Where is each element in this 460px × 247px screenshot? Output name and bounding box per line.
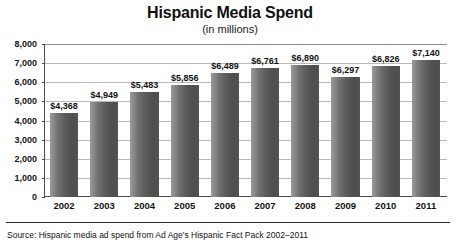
y-axis-tick-label: 5,000 — [14, 97, 37, 106]
bar-value-label: $6,890 — [292, 53, 320, 63]
bar[interactable] — [372, 66, 400, 197]
bar[interactable] — [90, 102, 118, 197]
bar-series: $4,368$4,949$5,483$5,856$6,489$6,761$6,8… — [44, 44, 446, 197]
bar-value-label: $5,483 — [131, 80, 159, 90]
bar[interactable] — [171, 85, 199, 197]
x-axis-tick-label: 2010 — [366, 200, 406, 211]
bar-value-label: $6,761 — [251, 56, 279, 66]
footer-divider — [6, 222, 450, 223]
y-axis-tick-labels: 8,0007,0006,0005,0004,0003,0002,0001,000… — [0, 44, 40, 197]
y-axis-tick-label: 0 — [32, 193, 37, 202]
bar-slot: $4,368 — [50, 44, 78, 197]
source-note: Source: Hispanic media ad spend from Ad … — [7, 230, 457, 240]
x-axis-tick-label: 2004 — [124, 200, 164, 211]
bar[interactable] — [291, 65, 319, 197]
x-axis-tick-label: 2002 — [44, 200, 84, 211]
y-axis-tick-label: 6,000 — [14, 78, 37, 87]
x-axis-tick-label: 2005 — [165, 200, 205, 211]
bar-value-label: $5,856 — [171, 73, 199, 83]
bar-value-label: $6,489 — [211, 61, 239, 71]
x-axis-tick-label: 2003 — [84, 200, 124, 211]
y-axis-tick-label: 4,000 — [14, 116, 37, 125]
chart-figure: Hispanic Media Spend (in millions) 8,000… — [0, 0, 460, 247]
y-axis-tick-label: 2,000 — [14, 154, 37, 163]
bar-value-label: $4,949 — [91, 90, 119, 100]
bar[interactable] — [50, 113, 78, 197]
bar[interactable] — [130, 92, 158, 197]
bar-value-label: $7,140 — [412, 48, 440, 58]
chart-title-block: Hispanic Media Spend (in millions) — [0, 4, 460, 36]
bar[interactable] — [251, 68, 279, 197]
plot-wrap: 8,0007,0006,0005,0004,0003,0002,0001,000… — [0, 44, 460, 197]
bar-slot: $5,856 — [171, 44, 199, 197]
bar-slot: $6,761 — [251, 44, 279, 197]
bar-slot: $6,297 — [331, 44, 359, 197]
chart-subtitle: (in millions) — [0, 23, 460, 36]
y-axis-tick-label: 3,000 — [14, 135, 37, 144]
bar-slot: $5,483 — [130, 44, 158, 197]
x-axis-tick-label: 2009 — [325, 200, 365, 211]
bar[interactable] — [211, 73, 239, 197]
chart-title: Hispanic Media Spend — [0, 4, 460, 22]
x-axis-tick-labels: 2002200320042005200620072008200920102011 — [44, 200, 446, 214]
bar-slot: $6,890 — [291, 44, 319, 197]
y-axis-tick-label: 8,000 — [14, 40, 37, 49]
bar-slot: $6,826 — [372, 44, 400, 197]
y-axis-tick-mark — [42, 197, 45, 198]
x-axis-tick-label: 2006 — [205, 200, 245, 211]
bar-value-label: $6,297 — [332, 65, 360, 75]
bar[interactable] — [412, 60, 440, 197]
bar-slot: $7,140 — [412, 44, 440, 197]
x-axis-tick-label: 2011 — [406, 200, 446, 211]
x-axis-tick-label: 2007 — [245, 200, 285, 211]
y-axis-tick-label: 1,000 — [14, 173, 37, 182]
bar-slot: $6,489 — [211, 44, 239, 197]
bar-value-label: $4,368 — [50, 101, 78, 111]
bar-slot: $4,949 — [90, 44, 118, 197]
x-axis-tick-label: 2008 — [285, 200, 325, 211]
bar[interactable] — [331, 77, 359, 197]
bar-value-label: $6,826 — [372, 54, 400, 64]
y-axis-tick-label: 7,000 — [14, 59, 37, 68]
